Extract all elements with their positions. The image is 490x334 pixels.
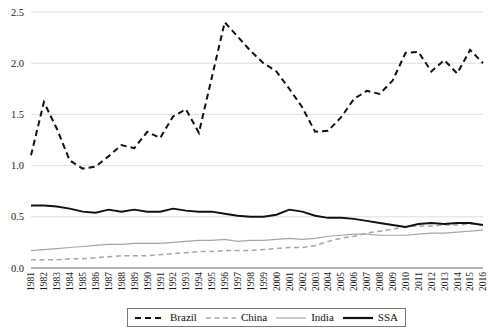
chart-legend: BrazilChinaIndiaSSA — [127, 308, 406, 327]
x-axis-tick-label: 1994 — [194, 272, 204, 291]
gridlines-group — [31, 12, 483, 268]
x-axis-tick-label: 1992 — [168, 272, 178, 291]
x-axis-tick-label: 2010 — [401, 272, 411, 291]
x-axis-tick-label: 1999 — [259, 272, 269, 291]
x-axis-tick-label: 2013 — [440, 272, 450, 291]
legend-item-india[interactable]: India — [276, 312, 334, 323]
x-axis-tick-label: 1990 — [143, 272, 153, 291]
x-axis-tick-label: 2008 — [375, 272, 385, 291]
legend-item-ssa[interactable]: SSA — [343, 312, 398, 323]
legend-swatch-brazil-icon — [135, 313, 165, 323]
legend-swatch-china-icon — [206, 313, 236, 323]
legend-swatch-ssa-icon — [343, 313, 373, 323]
legend-label: Brazil — [170, 312, 197, 323]
x-axis-tick-label: 2012 — [427, 272, 437, 291]
y-axis-tick-label: 0.5 — [11, 211, 24, 222]
legend-item-brazil[interactable]: Brazil — [135, 312, 197, 323]
line-chart: 0.00.51.01.52.02.5 198119821983198419851… — [0, 0, 490, 334]
x-axis-tick-labels: 1981198219831984198519861987198819891990… — [26, 272, 488, 291]
series-line-ssa — [31, 206, 483, 228]
x-axis-tick-label: 2007 — [362, 272, 372, 291]
x-axis-tick-label: 2011 — [414, 272, 424, 291]
x-axis-tick-label: 1988 — [117, 272, 127, 291]
series-line-china — [31, 224, 483, 260]
x-axis-tick-label: 1989 — [130, 272, 140, 291]
y-axis-tick-label: 0.0 — [11, 263, 24, 274]
x-axis-tick-label: 2009 — [388, 272, 398, 291]
x-axis-tick-label: 2015 — [465, 272, 475, 291]
series-line-india — [31, 230, 483, 250]
x-axis-tick-label: 1993 — [181, 272, 191, 291]
y-axis-tick-label: 2.5 — [11, 7, 24, 18]
x-axis-tick-label: 1984 — [65, 272, 75, 291]
x-axis-tick-label: 2014 — [453, 272, 463, 291]
series-group — [31, 22, 483, 260]
chart-canvas: 0.00.51.01.52.02.5 198119821983198419851… — [0, 0, 490, 334]
x-axis-tick-label: 1986 — [91, 272, 101, 291]
legend-label: India — [311, 312, 334, 323]
x-axis-tick-label: 1998 — [246, 272, 256, 291]
x-axis-tick-label: 1995 — [207, 272, 217, 291]
x-axis-tick-label: 1983 — [52, 272, 62, 291]
x-axis-tick-label: 2005 — [336, 272, 346, 291]
x-axis-tick-label: 1996 — [220, 272, 230, 291]
series-line-brazil — [31, 22, 483, 168]
x-axis-tick-label: 2002 — [298, 272, 308, 291]
x-axis-tick-label: 2000 — [272, 272, 282, 291]
x-axis-tick-label: 1987 — [104, 272, 114, 291]
legend-label: SSA — [378, 312, 398, 323]
y-axis-tick-label: 2.0 — [11, 58, 24, 69]
x-axis-tick-label: 2001 — [285, 272, 295, 291]
x-axis-tick-label: 2003 — [311, 272, 321, 291]
legend-label: China — [241, 312, 267, 323]
x-axis-tick-label: 2006 — [349, 272, 359, 291]
x-axis-tick-label: 2016 — [478, 272, 488, 291]
x-axis-tick-label: 2004 — [323, 272, 333, 291]
x-axis-tick-label: 1985 — [78, 272, 88, 291]
y-axis-tick-labels: 0.00.51.01.52.02.5 — [11, 7, 24, 274]
x-axis-tick-label: 1997 — [233, 272, 243, 291]
y-axis-tick-label: 1.0 — [11, 160, 24, 171]
x-axis-tick-label: 1981 — [26, 272, 36, 291]
legend-swatch-india-icon — [276, 313, 306, 323]
legend-item-china[interactable]: China — [206, 312, 267, 323]
y-axis-tick-label: 1.5 — [11, 109, 24, 120]
x-axis-tick-label: 1982 — [39, 272, 49, 291]
x-axis-tick-label: 1991 — [156, 272, 166, 291]
